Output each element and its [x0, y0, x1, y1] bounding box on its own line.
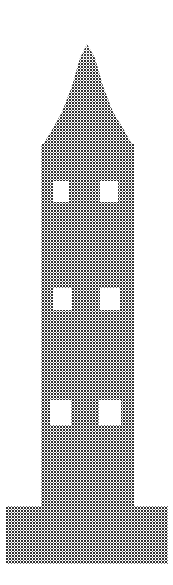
image-canvas: Tower with pointed spire, three pairs of…	[0, 0, 173, 585]
tower-illustration: Tower with pointed spire, three pairs of…	[0, 0, 173, 585]
